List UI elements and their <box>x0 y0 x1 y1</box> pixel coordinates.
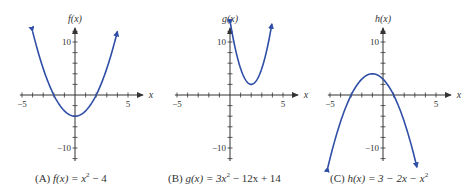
y-tick-label-neg10: −10 <box>57 143 72 153</box>
caption-label: (A) <box>35 172 50 184</box>
x-tick-label-5: 5 <box>281 99 286 109</box>
caption-function: g(x) = 3x <box>185 172 226 184</box>
caption-c: (C) h(x) = 3 − 2x − x2 <box>330 171 428 184</box>
function-curve <box>231 24 272 84</box>
y-tick-label-10: 10 <box>217 37 227 47</box>
x-tick-label-neg5: −5 <box>17 99 27 109</box>
x-tick-label-neg5: −5 <box>325 99 335 109</box>
x-tick-label-neg5: −5 <box>172 99 182 109</box>
x-tick-label-5: 5 <box>126 99 131 109</box>
y-axis-label: f(x) <box>68 13 83 25</box>
x-axis-label: x <box>303 89 309 100</box>
function-curve <box>328 74 417 167</box>
caption-function: h(x) = 3 − 2x − x <box>347 172 424 184</box>
y-tick-label-neg10: −10 <box>212 143 227 153</box>
function-graphs-figure: −5510−10xf(x) −5510−10xg(x) −5510−10xh(x… <box>0 0 471 195</box>
x-tick-label-5: 5 <box>434 99 439 109</box>
graph-panel-b: −5510−10xg(x) <box>172 13 309 161</box>
y-axis-label: g(x) <box>222 13 239 25</box>
y-tick-label-neg10: −10 <box>365 143 380 153</box>
caption-rest: − 4 <box>90 172 107 184</box>
caption-function: f(x) = x <box>53 172 86 184</box>
y-tick-label-10: 10 <box>370 37 380 47</box>
caption-b: (B) g(x) = 3x2 − 12x + 14 <box>168 171 281 184</box>
x-axis-label: x <box>148 89 154 100</box>
y-axis-label: h(x) <box>375 13 392 25</box>
x-axis-label: x <box>456 89 462 100</box>
y-tick-label-10: 10 <box>62 37 72 47</box>
graph-panel-a: −5510−10xf(x) <box>17 13 154 161</box>
caption-exponent: 2 <box>425 171 429 179</box>
graph-panel-c: −5510−10xh(x) <box>325 13 462 167</box>
caption-a: (A) f(x) = x2 − 4 <box>35 171 107 184</box>
caption-rest: − 12x + 14 <box>230 172 281 184</box>
caption-label: (B) <box>168 172 183 184</box>
caption-label: (C) <box>330 172 345 184</box>
